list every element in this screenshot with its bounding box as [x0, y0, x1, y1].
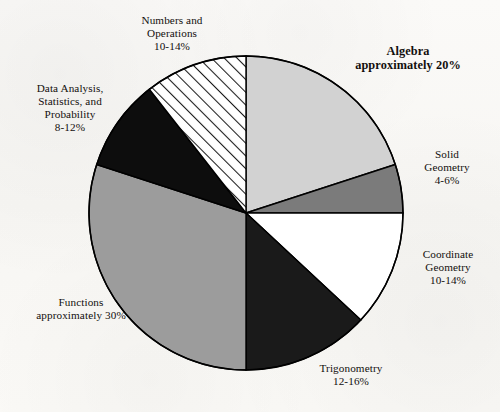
slice-label-numbers-operations-line-1: Numbers and [106, 14, 238, 27]
slice-label-data-analysis: Data Analysis, Statistics, and Probabili… [6, 82, 134, 134]
slice-label-numbers-operations: Numbers and Operations 10-14% [106, 14, 238, 53]
slice-label-algebra: Algebra approximately 20% [322, 44, 494, 73]
slice-label-data-analysis-line-3: Probability [6, 108, 134, 121]
slice-label-functions-line-1: Functions [6, 296, 156, 309]
slice-label-solid-geometry-line-3: 4-6% [406, 174, 488, 187]
slice-label-functions-line-2: approximately 30% [6, 309, 156, 322]
slice-label-trigonometry: Trigonometry 12-16% [286, 362, 416, 388]
slice-label-data-analysis-line-1: Data Analysis, [6, 82, 134, 95]
slice-label-numbers-operations-line-3: 10-14% [106, 40, 238, 53]
slice-label-data-analysis-line-2: Statistics, and [6, 95, 134, 108]
slice-label-solid-geometry-line-1: Solid [406, 148, 488, 161]
slice-label-solid-geometry-line-2: Geometry [406, 161, 488, 174]
slice-label-coordinate-geometry-line-2: Geometry [398, 261, 498, 274]
slice-label-solid-geometry: Solid Geometry 4-6% [406, 148, 488, 187]
pie-chart: Algebra approximately 20% Solid Geometry… [0, 0, 500, 412]
slice-label-data-analysis-line-4: 8-12% [6, 121, 134, 134]
slice-label-trigonometry-line-2: 12-16% [286, 375, 416, 388]
slice-label-trigonometry-line-1: Trigonometry [286, 362, 416, 375]
slice-label-numbers-operations-line-2: Operations [106, 27, 238, 40]
slice-label-coordinate-geometry-line-3: 10-14% [398, 274, 498, 287]
slice-label-coordinate-geometry-line-1: Coordinate [398, 248, 498, 261]
slice-label-algebra-line-1: Algebra [322, 44, 494, 58]
slice-label-functions: Functions approximately 30% [6, 296, 156, 322]
slice-label-algebra-line-2: approximately 20% [322, 58, 494, 72]
pie-slices-group [89, 56, 403, 370]
slice-label-coordinate-geometry: Coordinate Geometry 10-14% [398, 248, 498, 287]
